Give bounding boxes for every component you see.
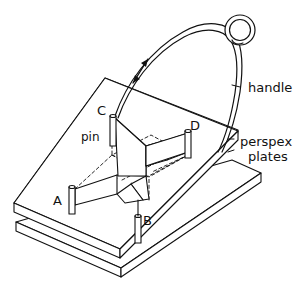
apparatus-diagram: handle perspex plates pin C D A B	[0, 0, 306, 295]
pin-d	[185, 130, 191, 159]
point-d-label: D	[190, 118, 200, 133]
pin-c	[110, 115, 116, 147]
handle-label: handle	[248, 80, 292, 95]
pin-label: pin	[81, 130, 100, 144]
pin-a	[69, 186, 75, 215]
point-a-label: A	[53, 193, 62, 208]
point-c-label: C	[97, 103, 106, 118]
perspex-plates-label-line1: perspex	[240, 134, 292, 149]
point-b-label: B	[143, 213, 152, 228]
perspex-plates-label-line2: plates	[248, 149, 288, 164]
double-headed-motion-arrow	[133, 59, 148, 83]
diagram-canvas: handle perspex plates pin C D A B	[0, 0, 306, 295]
handle-eyelet-loop	[225, 15, 255, 45]
